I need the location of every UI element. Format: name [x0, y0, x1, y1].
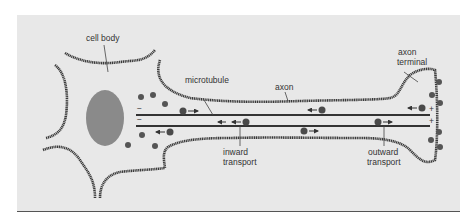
- label-axon: axon: [275, 82, 293, 92]
- label-axon-terminal-2: terminal: [397, 57, 427, 67]
- plus-end-upper: +: [429, 104, 434, 114]
- minus-end-upper: −: [137, 103, 142, 113]
- label-axon-terminal-1: axon: [398, 47, 416, 57]
- label-outward-2: transport: [367, 157, 401, 167]
- minus-end-lower: −: [137, 114, 142, 124]
- nucleus: [86, 90, 124, 146]
- label-outward-1: outward: [368, 147, 398, 157]
- plus-end-lower: +: [429, 116, 434, 126]
- label-cell-body: cell body: [86, 33, 120, 43]
- vesicles-cell-body: [125, 92, 168, 149]
- transport-vesicles: [156, 105, 426, 136]
- label-microtubule: microtubule: [185, 75, 229, 85]
- label-inward-1: inward: [223, 147, 248, 157]
- neuron-diagram: [0, 0, 476, 224]
- label-inward-2: transport: [223, 157, 257, 167]
